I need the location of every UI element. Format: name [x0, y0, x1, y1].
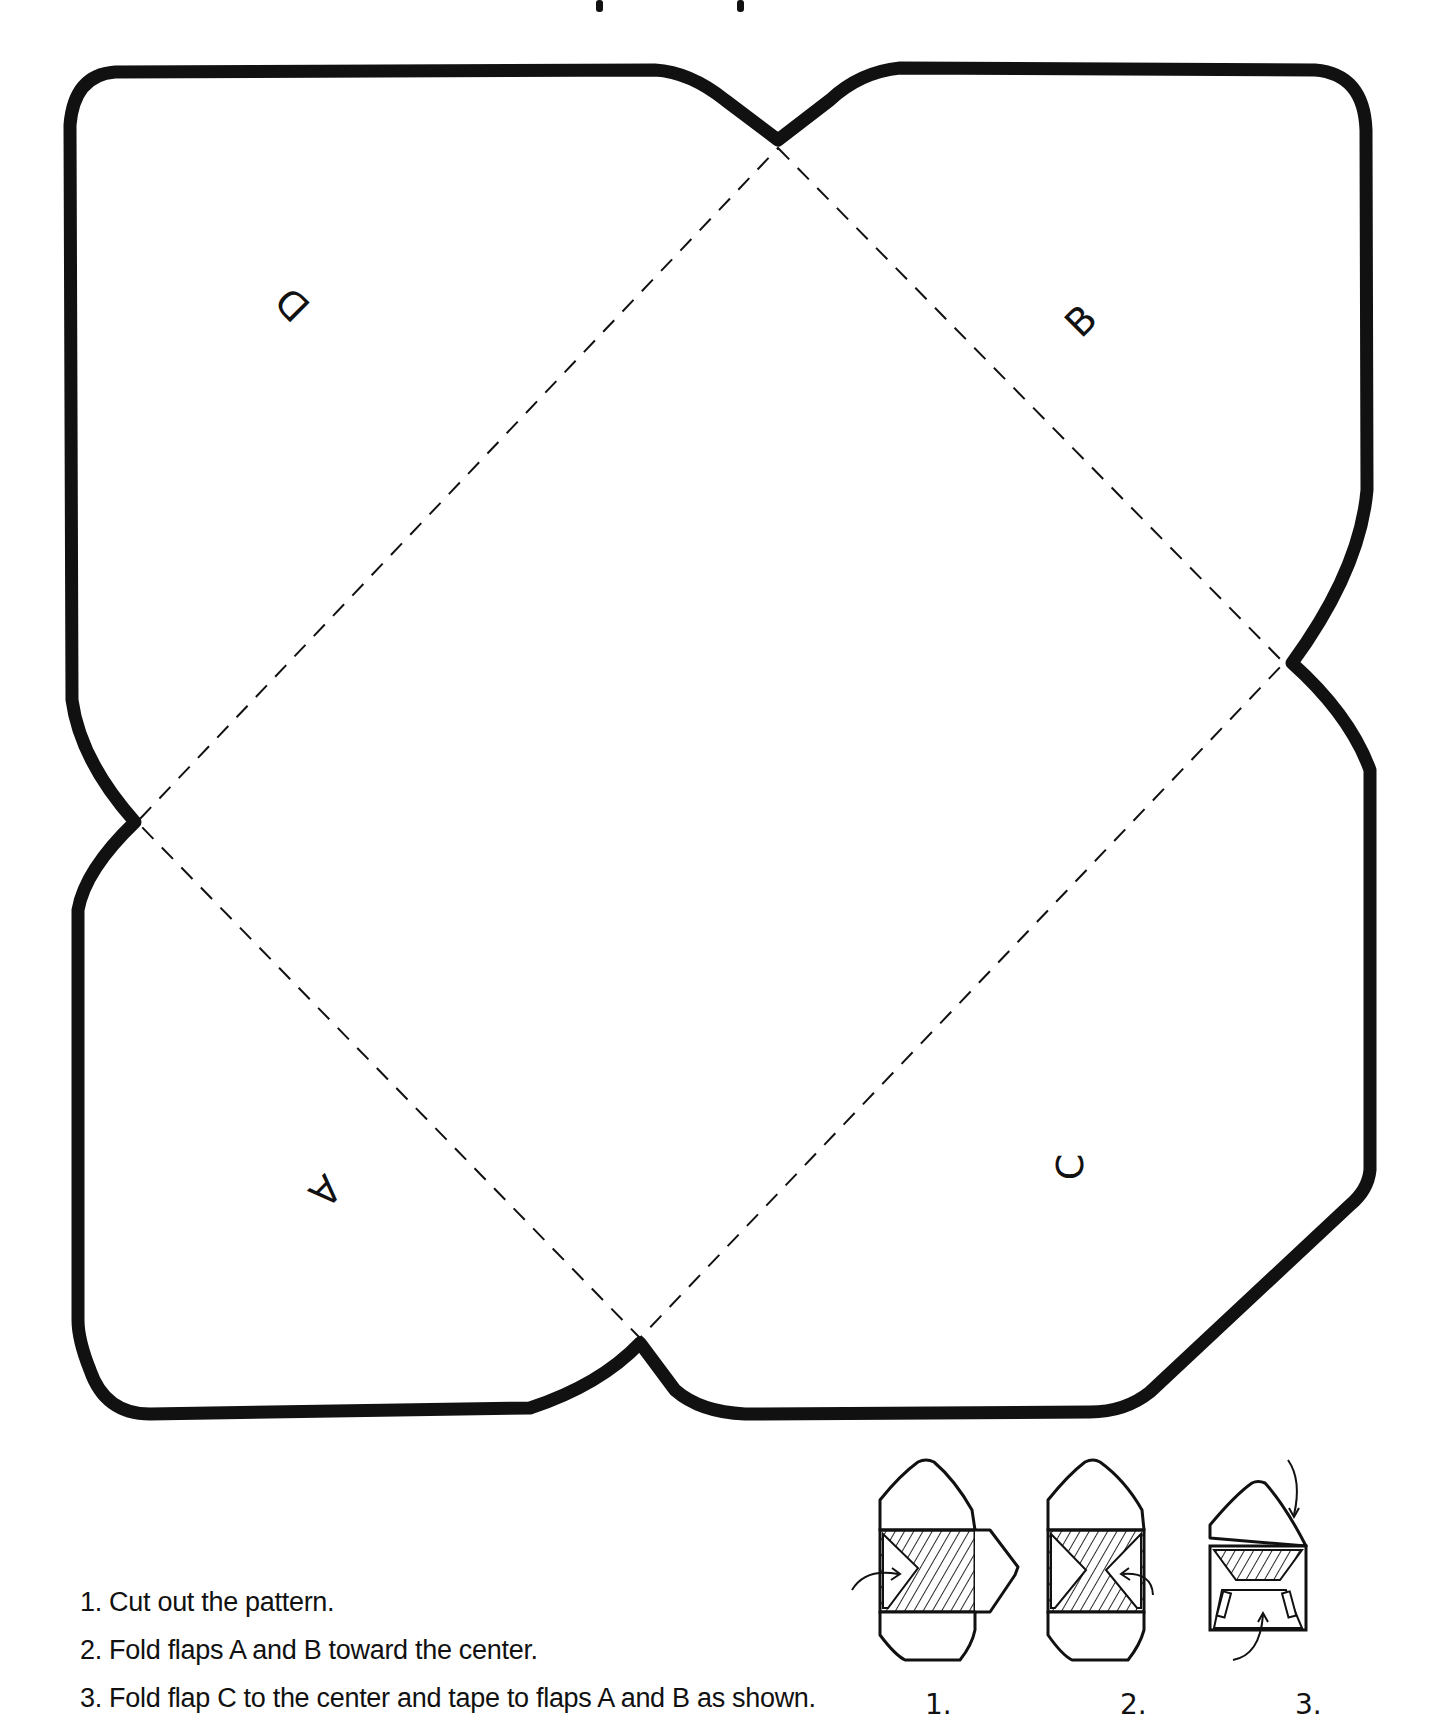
flap-label-c: C: [1051, 1154, 1089, 1181]
step-3-diagram: [1210, 1460, 1306, 1660]
instructions-list: 1. Cut out the pattern. 2. Fold flaps A …: [80, 1578, 816, 1722]
fold-lines: [137, 148, 1284, 1338]
step-2-diagram: [1048, 1460, 1153, 1660]
envelope-pattern: [0, 0, 1435, 1460]
step-label-3: 3.: [1295, 1688, 1322, 1721]
step-diagrams: [840, 1450, 1435, 1700]
step-label-2: 2.: [1120, 1688, 1147, 1721]
step-label-1: 1.: [925, 1688, 952, 1721]
instruction-step-2: 2. Fold flaps A and B toward the center.: [80, 1626, 816, 1674]
instruction-step-3: 3. Fold flap C to the center and tape to…: [80, 1674, 816, 1722]
step-1-diagram: [852, 1460, 1018, 1660]
cut-outline: [70, 68, 1370, 1414]
instruction-step-1: 1. Cut out the pattern.: [80, 1578, 816, 1626]
